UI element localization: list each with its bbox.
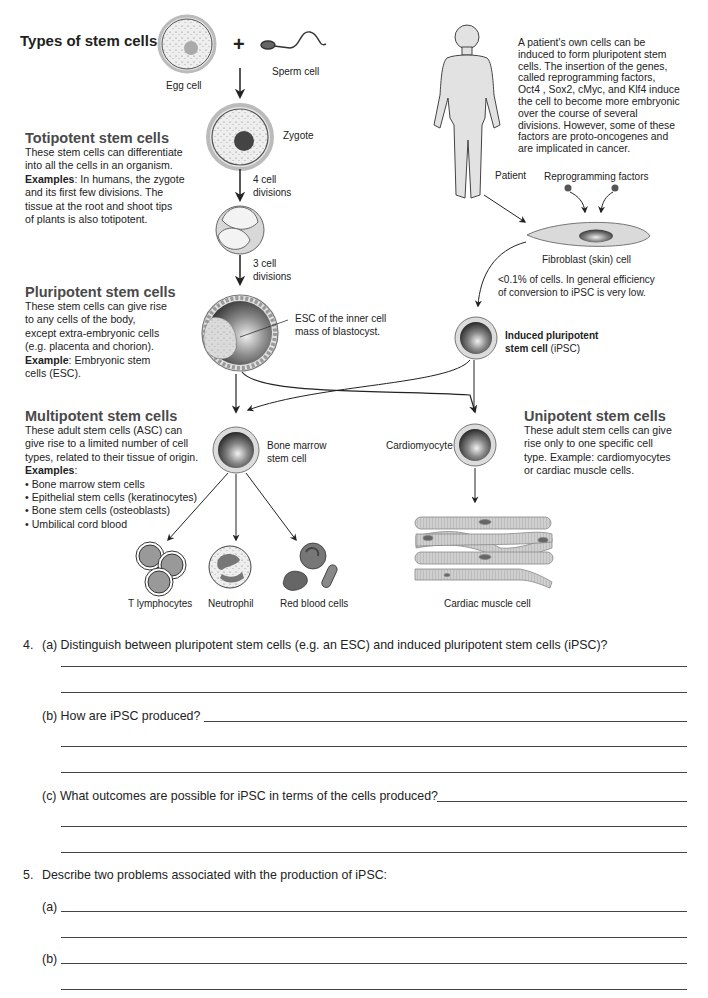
patient-label: Patient — [495, 170, 526, 183]
sperm-cell-label: Sperm cell — [272, 66, 319, 79]
list-item: Bone stem cells (osteoblasts) — [25, 504, 225, 517]
answer-line-4c-3[interactable] — [61, 852, 687, 853]
efficiency-note: <0.1% of cells. In general efficiency of… — [498, 274, 655, 299]
answer-line-4c-1[interactable] — [437, 801, 687, 802]
red-blood-cells-label: Red blood cells — [280, 598, 348, 611]
multipotent-examples-list: Bone marrow stem cells Epithelial stem c… — [25, 478, 225, 532]
egg-cell-label: Egg cell — [166, 80, 202, 93]
question-4b: (b) How are iPSC produced? — [42, 709, 200, 723]
sperm-cell-icon — [261, 32, 326, 49]
answer-line-4a-1[interactable] — [61, 666, 687, 667]
four-cell-embryo-icon — [216, 206, 264, 254]
reprogramming-factor-dot-icon — [612, 185, 619, 192]
page-title: Types of stem cells — [20, 32, 157, 49]
three-cell-divisions-label: 3 cell divisions — [253, 258, 291, 283]
neutrophil-label: Neutrophil — [208, 598, 254, 611]
question-5-number: 5. — [23, 868, 33, 882]
red-blood-cells-icon — [283, 543, 338, 590]
answer-line-5a-1[interactable] — [61, 911, 687, 912]
answer-line-5a-2[interactable] — [61, 937, 687, 938]
t-lymphocytes-icon — [136, 542, 186, 596]
question-4-number: 4. — [23, 638, 33, 652]
cardiac-muscle-icon — [415, 517, 553, 588]
reprogramming-factor-dot-icon — [565, 185, 572, 192]
answer-line-4b-2[interactable] — [61, 746, 687, 747]
neutrophil-icon — [209, 546, 251, 588]
fibroblast-cell-icon — [527, 222, 650, 246]
unipotent-heading: Unipotent stem cells — [524, 408, 704, 424]
totipotent-section: Totipotent stem cells These stem cells c… — [25, 130, 215, 226]
answer-line-4b-1[interactable] — [204, 721, 687, 722]
totipotent-heading: Totipotent stem cells — [25, 130, 215, 146]
ipsc-label: Induced pluripotent stem cell (iPSC) — [505, 330, 598, 355]
question-4c: (c) What outcomes are possible for iPSC … — [42, 789, 438, 803]
list-item: Umbilical cord blood — [25, 518, 225, 531]
egg-cell-icon — [159, 16, 215, 72]
esc-label: ESC of the inner cell mass of blastocyst… — [295, 313, 386, 338]
list-item: Epithelial stem cells (keratinocytes) — [25, 491, 225, 504]
zygote-icon — [208, 105, 272, 169]
t-lymphocytes-label: T lymphocytes — [128, 598, 192, 611]
answer-line-4c-2[interactable] — [61, 826, 687, 827]
patient-description: A patient's own cells can be induced to … — [518, 37, 680, 155]
question-5b-label: (b) — [42, 952, 57, 966]
plus-sign: + — [233, 33, 245, 56]
ipsc-cell-icon — [455, 317, 497, 359]
multipotent-heading: Multipotent stem cells — [25, 408, 225, 424]
answer-line-5b-1[interactable] — [61, 963, 687, 964]
pluripotent-section: Pluripotent stem cells These stem cells … — [25, 284, 215, 380]
fibroblast-label: Fibroblast (skin) cell — [542, 254, 631, 267]
patient-body-icon — [434, 25, 500, 198]
unipotent-section: Unipotent stem cells These adult stem ce… — [524, 408, 704, 478]
bone-marrow-stem-cell-label: Bone marrow stem cell — [267, 440, 326, 465]
pluripotent-heading: Pluripotent stem cells — [25, 284, 215, 300]
answer-line-4b-3[interactable] — [61, 772, 687, 773]
answer-line-5b-2[interactable] — [61, 989, 687, 990]
answer-line-4a-2[interactable] — [61, 692, 687, 693]
question-5a-label: (a) — [42, 900, 57, 914]
cardiomyocyte-icon — [454, 424, 496, 466]
question-5: Describe two problems associated with th… — [42, 868, 387, 882]
multipotent-section: Multipotent stem cells These adult stem … — [25, 408, 225, 531]
zygote-label: Zygote — [283, 130, 314, 143]
reprogramming-factors-label: Reprogramming factors — [544, 171, 648, 184]
four-cell-divisions-label: 4 cell divisions — [253, 174, 291, 199]
cardiomyocyte-label: Cardiomyocyte — [386, 440, 453, 453]
list-item: Bone marrow stem cells — [25, 478, 225, 491]
cardiac-muscle-cell-label: Cardiac muscle cell — [444, 598, 531, 611]
question-4a: (a) Distinguish between pluripotent stem… — [42, 638, 607, 652]
